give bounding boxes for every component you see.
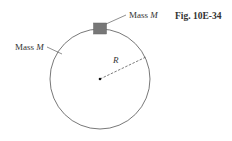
center-point — [99, 78, 102, 81]
ring-mass-word: Mass — [15, 42, 34, 52]
top-mass-leader-line — [106, 15, 126, 24]
radius-label: R — [113, 56, 119, 65]
ring-mass-symbol: M — [36, 42, 44, 52]
radius-dashed-line — [100, 57, 146, 79]
top-mass-word: Mass — [129, 10, 148, 20]
ring-mass-label: Mass M — [15, 43, 44, 52]
figure-caption: Fig. 10E-34 — [175, 12, 221, 22]
ring-mass-leader-line — [47, 47, 62, 54]
top-mass-label: Mass M — [129, 11, 158, 20]
top-mass-symbol: M — [150, 10, 158, 20]
point-mass-block — [94, 23, 107, 34]
